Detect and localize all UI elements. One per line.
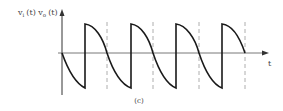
y-axis — [60, 9, 65, 95]
waveform-curve — [62, 24, 245, 88]
y-axis-label: vi(t) vo(t) — [17, 8, 58, 18]
x-axis — [58, 51, 269, 56]
waveform-figure: vi(t) vo(t) t (c) — [0, 0, 283, 111]
x-axis-label: t — [268, 59, 272, 68]
figure-caption: (c) — [134, 97, 144, 105]
